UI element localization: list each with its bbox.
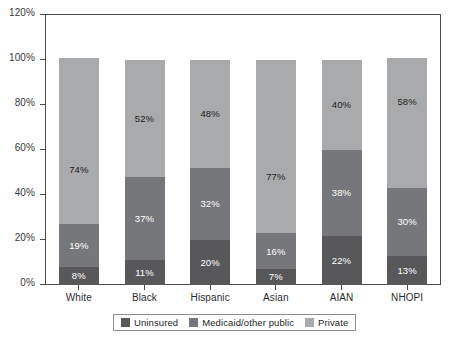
x-axis: WhiteBlackHispanicAsianAIANNHOPI bbox=[46, 285, 440, 309]
bar-segment-value-label: 13% bbox=[397, 266, 416, 276]
legend-item[interactable]: Medicaid/other public bbox=[189, 317, 294, 328]
x-axis-tick-label: NHOPI bbox=[377, 292, 437, 303]
bar-segment[interactable]: 16% bbox=[256, 233, 296, 269]
bar-segment[interactable]: 8% bbox=[59, 267, 99, 285]
bar-stack[interactable]: 8%19%74% bbox=[59, 58, 99, 285]
bar-segment-value-label: 19% bbox=[69, 241, 88, 251]
x-axis-tick-mark bbox=[210, 285, 211, 290]
chart-footnote bbox=[10, 337, 450, 346]
legend-swatch-icon bbox=[305, 318, 314, 327]
x-axis-tick-label: AIAN bbox=[312, 292, 372, 303]
x-axis-tick-label: Black bbox=[115, 292, 175, 303]
legend-swatch-icon bbox=[121, 318, 130, 327]
bar-stack[interactable]: 11%37%52% bbox=[125, 60, 165, 285]
bar-segment[interactable]: 38% bbox=[322, 150, 362, 236]
chart-legend: UninsuredMedicaid/other publicPrivate bbox=[113, 314, 356, 331]
bar-stack[interactable]: 22%38%40% bbox=[322, 60, 362, 285]
bar-stack[interactable]: 7%16%77% bbox=[256, 60, 296, 285]
bar-segment[interactable]: 52% bbox=[125, 60, 165, 177]
bar-segment[interactable]: 77% bbox=[256, 60, 296, 233]
legend-item-label: Medicaid/other public bbox=[202, 317, 294, 328]
x-axis-tick-mark bbox=[78, 285, 79, 290]
y-axis-tick-label: 0% bbox=[20, 277, 35, 288]
legend-item-label: Private bbox=[318, 317, 348, 328]
x-axis-tick-mark bbox=[407, 285, 408, 290]
bar-segment[interactable]: 32% bbox=[190, 168, 230, 240]
y-axis: 0%20%40%60%80%100%120% bbox=[0, 14, 45, 285]
legend-item-label: Uninsured bbox=[134, 317, 178, 328]
bar-segment-value-label: 77% bbox=[266, 172, 285, 182]
y-axis-tick-label: 60% bbox=[15, 142, 35, 153]
bar-segment[interactable]: 22% bbox=[322, 236, 362, 286]
y-axis-tick-label: 20% bbox=[15, 232, 35, 243]
bar-segment[interactable]: 13% bbox=[387, 256, 427, 285]
bar-segment-value-label: 8% bbox=[72, 271, 86, 281]
stacked-bar-chart: 0%20%40%60%80%100%120% 8%19%74%11%37%52%… bbox=[0, 0, 456, 346]
bar-segment[interactable]: 19% bbox=[59, 224, 99, 267]
bar-segment-value-label: 37% bbox=[135, 214, 154, 224]
bar-segment-value-label: 16% bbox=[266, 247, 285, 257]
bar-segment-value-label: 48% bbox=[200, 109, 219, 119]
bar-segment[interactable]: 30% bbox=[387, 188, 427, 256]
bar-segment[interactable]: 74% bbox=[59, 58, 99, 225]
x-axis-tick-mark bbox=[144, 285, 145, 290]
bar-segment-value-label: 32% bbox=[200, 199, 219, 209]
bar-segment-value-label: 58% bbox=[397, 97, 416, 107]
bar-segment-value-label: 20% bbox=[200, 258, 219, 268]
legend-item[interactable]: Private bbox=[305, 317, 348, 328]
bar-stack[interactable]: 13%30%58% bbox=[387, 58, 427, 285]
y-axis-tick-label: 40% bbox=[15, 187, 35, 198]
y-axis-tick-label: 80% bbox=[15, 97, 35, 108]
bar-segment-value-label: 7% bbox=[269, 272, 283, 282]
bar-segment[interactable]: 48% bbox=[190, 60, 230, 168]
bar-segment[interactable]: 37% bbox=[125, 177, 165, 260]
bar-stack[interactable]: 20%32%48% bbox=[190, 60, 230, 285]
bar-segment-value-label: 30% bbox=[397, 217, 416, 227]
bar-segment[interactable]: 7% bbox=[256, 269, 296, 285]
bars-layer: 8%19%74%11%37%52%20%32%48%7%16%77%22%38%… bbox=[46, 15, 440, 285]
bar-segment-value-label: 22% bbox=[332, 256, 351, 266]
bar-segment-value-label: 52% bbox=[135, 114, 154, 124]
y-axis-tick-label: 100% bbox=[9, 52, 35, 63]
bar-segment-value-label: 74% bbox=[69, 165, 88, 175]
x-axis-tick-mark bbox=[275, 285, 276, 290]
bar-segment-value-label: 11% bbox=[135, 268, 154, 278]
bar-segment-value-label: 38% bbox=[332, 188, 351, 198]
bar-segment[interactable]: 58% bbox=[387, 58, 427, 189]
bar-segment-value-label: 40% bbox=[332, 100, 351, 110]
x-axis-tick-label: White bbox=[49, 292, 109, 303]
legend-swatch-icon bbox=[189, 318, 198, 327]
x-axis-tick-label: Asian bbox=[246, 292, 306, 303]
bar-segment[interactable]: 11% bbox=[125, 260, 165, 285]
bar-segment[interactable]: 40% bbox=[322, 60, 362, 150]
bar-segment[interactable]: 20% bbox=[190, 240, 230, 285]
x-axis-tick-label: Hispanic bbox=[180, 292, 240, 303]
legend-item[interactable]: Uninsured bbox=[121, 317, 178, 328]
x-axis-tick-mark bbox=[341, 285, 342, 290]
y-axis-tick-label: 120% bbox=[9, 7, 35, 18]
